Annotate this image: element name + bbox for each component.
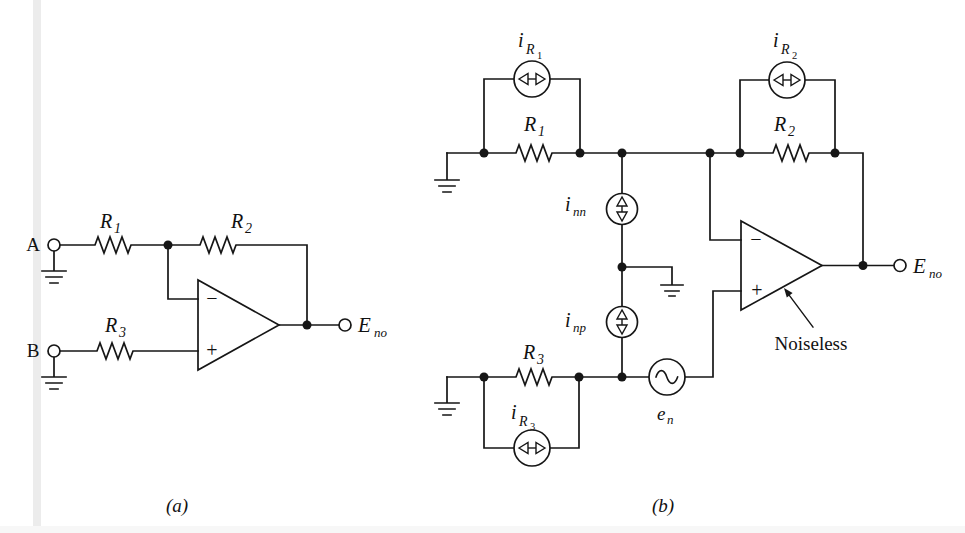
opamp-plus-sign: + — [206, 339, 217, 361]
node-dot — [859, 261, 868, 270]
ground-icon — [435, 377, 459, 415]
node-dot — [480, 149, 489, 158]
figure-canvas: A B R 1 R 2 R 3 − + E no (a) — [0, 0, 965, 533]
r2-subscript: 2 — [788, 124, 795, 139]
circuit-a: A B R 1 R 2 R 3 − + E no (a) — [26, 210, 387, 517]
node-dot — [575, 373, 584, 382]
input-a-label: A — [26, 234, 40, 255]
ir1-subscript: R — [525, 42, 535, 57]
opamp-minus-sign: − — [750, 228, 761, 250]
node-dot — [831, 149, 840, 158]
wire-input-a — [60, 237, 168, 253]
r3-subscript: 3 — [536, 352, 544, 367]
output-subscript: no — [929, 266, 943, 281]
r1-subscript: 1 — [538, 124, 545, 139]
node-dot — [706, 149, 715, 158]
r1-label: R — [99, 210, 112, 232]
ground-icon — [42, 251, 66, 283]
terminal-output — [894, 260, 906, 272]
node-dot — [303, 321, 312, 330]
noiseless-arrow — [784, 288, 813, 327]
node-dot — [576, 149, 585, 158]
ground-icon — [435, 153, 459, 192]
node-dot — [618, 263, 627, 272]
inp-subscript: np — [573, 320, 587, 335]
terminal-output — [339, 319, 351, 331]
inn-subscript: nn — [573, 204, 586, 219]
ir2-label: i — [773, 29, 779, 51]
opamp-minus-sign: − — [206, 287, 217, 309]
circuit-diagram: A B R 1 R 2 R 3 − + E no (a) — [0, 0, 965, 533]
node-dot — [164, 241, 173, 250]
caption-b: (b) — [652, 495, 674, 517]
wire-feedback-r2 — [168, 237, 307, 325]
node-dot — [480, 373, 489, 382]
ir3-label: i — [511, 401, 517, 423]
r2-label: R — [230, 210, 243, 232]
ir1-subsubscript: 1 — [537, 50, 542, 61]
ir3-subsubscript: 3 — [530, 421, 535, 432]
terminal-a — [48, 239, 60, 251]
current-source-ir1-icon — [514, 61, 550, 97]
ir2-subscript: R — [780, 42, 790, 57]
ir3-subscript: R — [518, 414, 528, 429]
wire-bottom-rail — [447, 291, 741, 385]
noiseless-label: Noiseless — [775, 333, 848, 354]
r2-label: R — [773, 113, 786, 135]
opamp-plus-sign: + — [751, 279, 762, 301]
voltage-source-en-icon — [649, 359, 685, 395]
terminal-b — [48, 345, 60, 357]
current-source-ir3-icon — [514, 430, 550, 466]
wire-top-rail — [447, 145, 863, 266]
r3-label: R — [522, 341, 535, 363]
wire-input-b — [60, 343, 198, 359]
output-subscript: no — [374, 325, 388, 340]
ground-icon — [42, 357, 66, 389]
output-label: E — [912, 254, 926, 278]
r3-label: R — [104, 314, 117, 336]
en-subscript: n — [667, 412, 674, 427]
wire-inverting-input — [710, 153, 741, 240]
circuit-b: i R 1 R 1 i R 2 R 2 i nn i np R 3 i R 3 … — [435, 29, 943, 517]
node-dot — [618, 149, 627, 158]
input-b-label: B — [27, 340, 40, 361]
r1-label: R — [523, 113, 536, 135]
r3-subscript: 3 — [118, 325, 126, 340]
wire-inn-branch — [622, 153, 683, 377]
current-source-inn-icon — [607, 194, 638, 225]
r2-subscript: 2 — [245, 221, 252, 236]
inn-label: i — [565, 193, 571, 215]
ir2-subsubscript: 2 — [792, 50, 797, 61]
current-source-ir2-icon — [769, 62, 805, 98]
inp-label: i — [565, 309, 571, 331]
output-label: E — [357, 313, 371, 337]
en-label: e — [657, 403, 665, 424]
r1-subscript: 1 — [114, 221, 121, 236]
node-dot — [618, 373, 627, 382]
caption-a: (a) — [166, 495, 188, 517]
current-source-inp-icon — [607, 307, 638, 338]
ir1-label: i — [518, 29, 524, 51]
node-dot — [736, 149, 745, 158]
wire-inverting-input — [168, 245, 198, 299]
